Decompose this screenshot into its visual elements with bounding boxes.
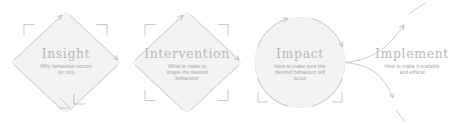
implement-tail-lower	[396, 110, 405, 122]
diagram-canvas: Insight Why behaviour occurs (or not) In…	[0, 0, 462, 125]
intervention-arrow-corner-bottom-left	[145, 90, 155, 101]
intervention-arrow-corner-bottom-right	[218, 90, 228, 101]
intervention-arrow-corner-top-right	[218, 25, 228, 36]
implement-tail-upper	[409, 3, 426, 14]
stage-shape-implement	[345, 3, 426, 122]
implement-arrow-lower	[345, 63, 393, 99]
stage-shape-intervention	[133, 12, 241, 113]
insight-arrow-corner-top-left	[24, 25, 34, 36]
implement-arrow-upper	[345, 25, 404, 63]
stage-shape-impact	[255, 18, 345, 108]
insight-diamond	[12, 12, 120, 113]
stage-shape-insight	[12, 12, 120, 113]
intervention-diamond	[133, 12, 241, 113]
impact-arrow-corner-bottom-left	[258, 92, 268, 102]
impact-circle	[255, 18, 345, 108]
diagram-graphics	[0, 0, 462, 125]
insight-arrow-corner-top-right	[97, 25, 107, 36]
intervention-arrow-corner-top-left	[145, 25, 155, 36]
impact-arrow-corner-bottom-right	[332, 92, 342, 102]
